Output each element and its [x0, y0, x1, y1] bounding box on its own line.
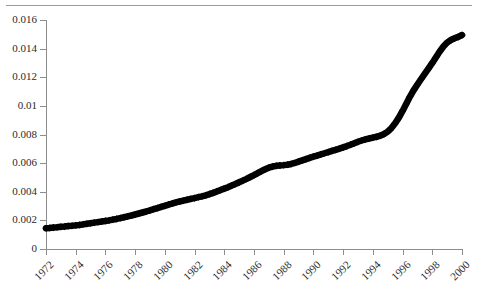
data-point-marker — [384, 128, 391, 135]
data-point-marker — [239, 177, 246, 184]
data-point-marker — [161, 202, 168, 209]
data-point-marker — [65, 223, 72, 230]
y-tick-label: 0.014 — [12, 43, 37, 54]
data-point-marker — [146, 207, 153, 214]
y-tick — [40, 20, 46, 21]
x-tick-label: 2000 — [441, 259, 471, 289]
x-tick — [195, 250, 196, 255]
data-point-marker — [91, 219, 98, 226]
data-point-marker — [83, 220, 90, 227]
data-point-marker — [291, 159, 298, 166]
x-tick — [343, 250, 344, 255]
data-point-marker — [325, 149, 332, 156]
x-tick-label: 1988 — [263, 259, 293, 289]
header-divider — [6, 5, 472, 6]
data-point-marker — [165, 201, 172, 208]
data-point-marker — [369, 134, 376, 141]
chart-page: 00.0020.0040.0060.0080.010.0120.0140.016… — [0, 0, 479, 295]
data-point-marker — [106, 217, 113, 224]
y-tick — [40, 49, 46, 50]
data-point-marker — [432, 54, 439, 61]
data-point-marker — [273, 162, 280, 169]
data-point-marker — [228, 182, 235, 189]
data-point-marker — [236, 179, 243, 186]
x-tick — [313, 250, 314, 255]
data-point-marker — [321, 150, 328, 157]
data-point-marker — [444, 39, 451, 46]
data-point-marker — [392, 120, 399, 127]
data-point-marker — [284, 161, 291, 168]
x-tick-label: 1986 — [233, 259, 263, 289]
x-tick-label: 1978 — [115, 259, 145, 289]
data-point-marker — [403, 100, 410, 107]
data-point-marker — [80, 221, 87, 228]
data-point-marker — [414, 81, 421, 88]
data-point-marker — [102, 217, 109, 224]
y-tick-label: 0.012 — [12, 71, 37, 82]
data-point-marker — [440, 43, 447, 50]
data-point-marker — [418, 75, 425, 82]
data-point-marker — [351, 140, 358, 147]
x-tick-label: 1984 — [204, 259, 234, 289]
data-point-marker — [46, 224, 53, 231]
x-tick-label: 1976 — [85, 259, 115, 289]
y-tick-label: 0.006 — [12, 157, 37, 168]
y-tick-label-wrap: 0.002 — [0, 214, 37, 225]
data-point-marker — [295, 158, 302, 165]
y-tick — [40, 77, 46, 78]
y-tick — [40, 220, 46, 221]
data-point-marker — [310, 153, 317, 160]
y-tick — [40, 106, 46, 107]
data-point-marker — [317, 151, 324, 158]
x-tick — [462, 250, 463, 255]
data-point-marker — [187, 195, 194, 202]
data-point-marker — [94, 218, 101, 225]
data-point-marker — [128, 212, 135, 219]
data-point-marker — [113, 215, 120, 222]
data-point-marker — [54, 224, 61, 231]
data-point-marker — [276, 162, 283, 169]
data-point-marker — [436, 48, 443, 55]
data-point-marker — [388, 124, 395, 131]
data-point-marker — [210, 189, 217, 196]
data-point-marker — [410, 87, 417, 94]
y-tick-label-wrap: 0 — [0, 243, 37, 254]
data-point-marker — [354, 138, 361, 145]
data-point-marker — [169, 200, 176, 207]
data-point-marker — [421, 70, 428, 77]
y-tick-label-wrap: 0.01 — [0, 100, 37, 111]
data-point-marker — [172, 199, 179, 206]
data-point-marker — [76, 221, 83, 228]
data-point-marker — [206, 191, 213, 198]
data-point-marker — [247, 173, 254, 180]
data-point-marker — [120, 214, 127, 221]
x-tick — [165, 250, 166, 255]
data-point-marker — [262, 166, 269, 173]
y-tick-label-wrap: 0.006 — [0, 157, 37, 168]
data-point-marker — [425, 65, 432, 72]
x-tick — [254, 250, 255, 255]
data-point-marker — [132, 211, 139, 218]
data-point-marker — [380, 130, 387, 137]
y-tick — [40, 163, 46, 164]
x-tick — [105, 250, 106, 255]
x-tick-label: 1992 — [323, 259, 353, 289]
data-point-marker — [61, 223, 68, 230]
x-tick-label: 1996 — [382, 259, 412, 289]
data-point-marker — [180, 197, 187, 204]
data-point-marker — [232, 180, 239, 187]
data-point-marker — [250, 172, 257, 179]
y-tick-label: 0.016 — [12, 14, 37, 25]
data-point-marker — [50, 224, 57, 231]
data-point-marker — [366, 135, 373, 142]
data-point-marker — [213, 188, 220, 195]
data-point-marker — [135, 210, 142, 217]
data-point-marker — [377, 132, 384, 139]
data-point-marker — [224, 184, 231, 191]
x-tick-label: 1974 — [55, 259, 85, 289]
y-tick-label: 0 — [32, 243, 38, 254]
data-point-marker — [72, 222, 79, 229]
data-point-marker — [455, 33, 462, 40]
y-tick-label-wrap: 0.004 — [0, 186, 37, 197]
x-tick-label: 1998 — [412, 259, 442, 289]
